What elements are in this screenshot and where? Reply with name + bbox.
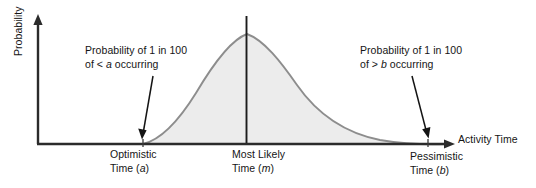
callout-left: Probability of 1 in 100 of < a occurring [85, 44, 187, 71]
callout-right-line2-suffix: occurring [387, 58, 434, 70]
x-axis-arrowhead [444, 139, 455, 148]
tick-label-pessimistic-line1: Pessimistic [410, 150, 463, 164]
tick-label-optimistic-prefix: Time ( [110, 162, 140, 174]
tick-label-optimistic-suffix: ) [146, 162, 150, 174]
tick-label-pessimistic: Pessimistic Time (b) [410, 150, 463, 177]
y-axis-arrowhead [33, 14, 42, 25]
tick-label-optimistic-line1: Optimistic [110, 148, 157, 162]
x-axis-title: Activity Time [458, 133, 518, 147]
tick-label-optimistic: Optimistic Time (a) [110, 148, 157, 175]
tick-label-most-likely-prefix: Time ( [232, 162, 262, 174]
callout-left-line2-suffix: occurring [112, 58, 159, 70]
tick-label-most-likely-suffix: ) [270, 162, 274, 174]
callout-right-line1: Probability of 1 in 100 [360, 44, 462, 58]
leader-arrow-left-line [144, 76, 154, 131]
callout-left-line2: of < a occurring [85, 58, 187, 72]
tick-label-most-likely-line2: Time (m) [232, 162, 285, 176]
leader-arrow-right-head [422, 127, 430, 139]
tick-label-pessimistic-prefix: Time ( [410, 164, 440, 176]
y-axis-title: Probability [12, 6, 26, 56]
callout-left-line2-prefix: of < [85, 58, 106, 70]
callout-right-line2: of > b occurring [360, 58, 462, 72]
tick-label-most-likely-line1: Most Likely [232, 148, 285, 162]
tick-label-optimistic-line2: Time (a) [110, 162, 157, 176]
tick-label-pessimistic-suffix: ) [446, 164, 450, 176]
leader-arrow-left-head [138, 129, 146, 140]
leader-arrow-right-line [412, 76, 426, 130]
callout-right-line2-prefix: of > [360, 58, 381, 70]
beta-distribution-figure: Probability Activity Time Probability of… [0, 0, 536, 188]
tick-label-most-likely: Most Likely Time (m) [232, 148, 285, 175]
tick-label-pessimistic-line2: Time (b) [410, 164, 463, 178]
callout-right: Probability of 1 in 100 of > b occurring [360, 44, 462, 71]
callout-left-line1: Probability of 1 in 100 [85, 44, 187, 58]
